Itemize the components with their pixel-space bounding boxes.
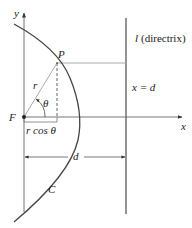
conic-diagram: y x F P r θ r cos θ d C l (directrix) x …: [0, 0, 192, 228]
rcos-label: r cos θ: [26, 124, 56, 136]
directrix-word: (directrix): [141, 32, 186, 45]
theta-label: θ: [43, 97, 49, 109]
directrix-equation: x = d: [131, 81, 156, 93]
radius-line: [24, 63, 57, 117]
point-p: [56, 62, 58, 64]
y-axis-label: y: [13, 7, 19, 19]
directrix-letter: l: [135, 32, 138, 44]
curve-label: C: [48, 183, 56, 195]
point-label: P: [57, 48, 65, 60]
focus-label: F: [8, 111, 16, 123]
distance-label: d: [73, 150, 79, 162]
radius-label: r: [33, 79, 38, 91]
focus-point: [22, 115, 26, 119]
rcos-bracket: [24, 117, 57, 122]
x-axis-label: x: [180, 120, 186, 132]
